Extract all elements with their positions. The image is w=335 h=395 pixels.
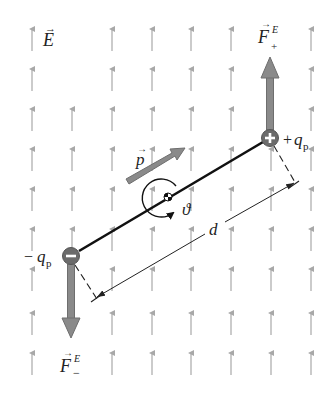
- dipole-moment-arrow: p →: [126, 143, 185, 184]
- force-arrow-negative: [62, 264, 80, 338]
- svg-text:−: −: [73, 366, 80, 380]
- negative-charge-label: − q p: [24, 247, 52, 269]
- svg-text:E: E: [271, 24, 278, 35]
- minus-icon: [66, 255, 76, 258]
- rotation-indicator: ϑ: [142, 179, 192, 219]
- dimension-extension-lines: [75, 146, 299, 302]
- svg-text:−: −: [24, 248, 33, 265]
- svg-text:+: +: [283, 131, 292, 148]
- positive-charge: [262, 130, 279, 147]
- svg-text:q: q: [37, 247, 46, 266]
- svg-text:p: p: [303, 140, 309, 152]
- svg-text:p: p: [46, 257, 52, 269]
- separation-label: d: [209, 220, 218, 239]
- field-vector-mark: →: [45, 22, 56, 34]
- svg-text:q: q: [294, 130, 303, 149]
- force-arrow-positive: [261, 57, 279, 130]
- dipole-diagram: E → d ϑ p →: [0, 0, 335, 395]
- separation-dimension: d: [97, 183, 294, 297]
- force-negative-label: → F E −: [59, 347, 80, 380]
- svg-text:+: +: [271, 40, 277, 52]
- field-label: E →: [42, 22, 56, 50]
- positive-charge-label: + q p: [283, 130, 309, 152]
- dipole-moment-vector-mark: →: [137, 143, 147, 154]
- svg-text:F: F: [59, 356, 72, 376]
- svg-text:F: F: [257, 27, 270, 47]
- svg-text:E: E: [73, 353, 80, 364]
- negative-charge: [63, 248, 80, 265]
- pivot-icon: [164, 193, 172, 201]
- force-positive-label: → F E +: [257, 18, 278, 52]
